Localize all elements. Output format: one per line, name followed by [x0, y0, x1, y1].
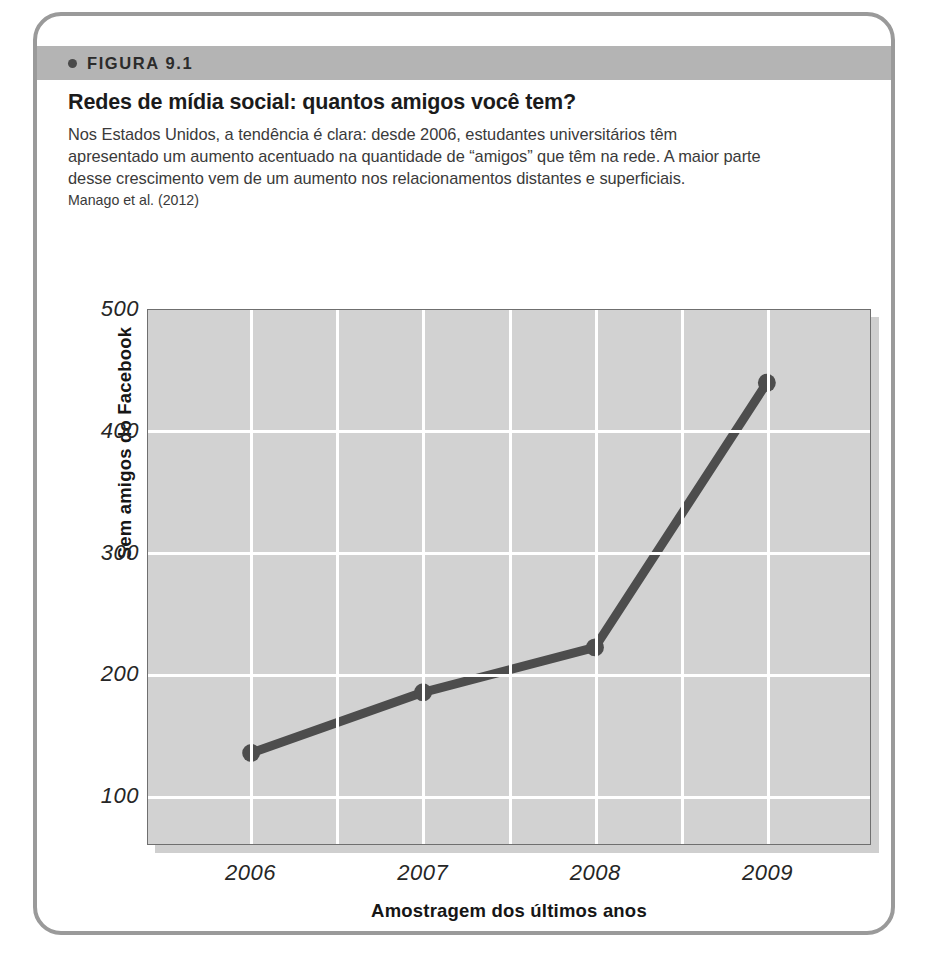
gridline-vertical [767, 310, 770, 844]
x-axis-title: Amostragem dos últimos anos [147, 900, 871, 922]
plot-area [147, 309, 871, 845]
x-tick-label: 2007 [397, 860, 448, 886]
figure-page: FIGURA 9.1 Redes de mídia social: quanto… [0, 0, 929, 974]
gridline-vertical-minor [681, 310, 684, 844]
gridline-vertical-minor [509, 310, 512, 844]
gridline-vertical [250, 310, 253, 844]
x-tick-label: 2008 [570, 860, 621, 886]
y-tick-label: 100 [77, 783, 139, 809]
y-tick-label: 200 [77, 661, 139, 687]
figure-card: FIGURA 9.1 Redes de mídia social: quanto… [33, 12, 895, 935]
y-tick-label: 400 [77, 418, 139, 444]
figure-source-citation: Manago et al. (2012) [68, 192, 768, 208]
gridline-vertical-minor [336, 310, 339, 844]
figure-label: FIGURA 9.1 [87, 54, 193, 73]
figure-text-block: Redes de mídia social: quantos amigos vo… [68, 90, 768, 208]
y-axis-tick-labels: 100200300400500 [65, 309, 139, 845]
figure-title: Redes de mídia social: quantos amigos vo… [68, 90, 768, 115]
y-tick-label: 500 [77, 296, 139, 322]
x-tick-label: 2009 [742, 860, 793, 886]
figure-header-band: FIGURA 9.1 [37, 46, 891, 80]
bullet-icon [68, 59, 77, 68]
x-axis-tick-labels: 2006200720082009 [147, 860, 871, 894]
figure-description: Nos Estados Unidos, a tendência é clara:… [68, 124, 768, 189]
x-tick-label: 2006 [225, 860, 276, 886]
chart-container: Sem amigos do Facebook 100200300400500 2… [37, 262, 891, 922]
gridline-vertical [422, 310, 425, 844]
gridline-vertical [595, 310, 598, 844]
y-tick-label: 300 [77, 540, 139, 566]
figure-header-inner: FIGURA 9.1 [37, 54, 193, 73]
